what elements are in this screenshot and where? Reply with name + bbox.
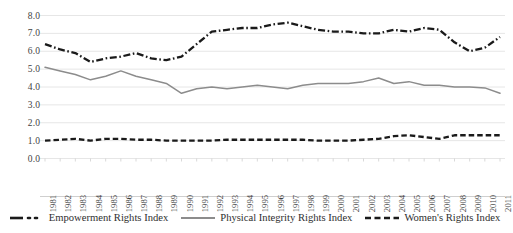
series-line: [45, 135, 500, 140]
legend-swatch-solid-icon: [181, 214, 215, 222]
series-line: [45, 67, 500, 93]
x-axis-labels: 1981198219831984198519861987198819891990…: [45, 161, 500, 197]
series-line: [45, 23, 500, 62]
y-axis-tick-label: 5.0: [14, 64, 40, 74]
y-axis-tick-label: 2.0: [14, 118, 40, 128]
y-axis-tick-label: 1.0: [14, 136, 40, 146]
legend-label: Women's Rights Index: [404, 212, 500, 224]
legend-swatch-dash-dot-icon: [10, 214, 44, 222]
y-axis-tick-label: 3.0: [14, 100, 40, 110]
y-axis-labels: 8.07.06.05.04.03.02.01.00.0: [14, 0, 40, 165]
y-axis-tick-label: 8.0: [14, 11, 40, 21]
y-axis-tick-label: 0.0: [14, 154, 40, 164]
y-axis-tick-label: 7.0: [14, 28, 40, 38]
legend-swatch-dashed-icon: [365, 214, 399, 222]
legend-item-womens-rights-index: Women's Rights Index: [365, 212, 500, 224]
legend-label: Physical Integrity Rights Index: [220, 212, 352, 224]
legend-item-empowerment-rights-index: Empowerment Rights Index: [10, 212, 168, 224]
chart-legend: Empowerment Rights Index Physical Integr…: [0, 203, 510, 233]
legend-label: Empowerment Rights Index: [49, 212, 168, 224]
y-axis-tick-label: 4.0: [14, 82, 40, 92]
y-axis-tick-label: 6.0: [14, 46, 40, 56]
legend-item-physical-integrity-rights-index: Physical Integrity Rights Index: [181, 212, 352, 224]
